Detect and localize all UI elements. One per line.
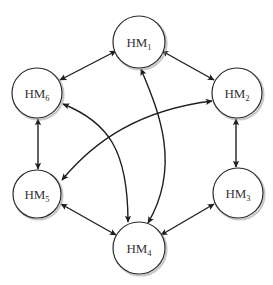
node-hm4: HM4 [113, 222, 167, 276]
node-hm3: HM3 [213, 168, 265, 220]
nodes-group: HM1 HM2 HM3 HM4 HM5 HM6 [12, 16, 265, 276]
edge-hm1-hm6 [60, 51, 116, 80]
hm-network-diagram: HM1 HM2 HM3 HM4 HM5 HM6 [0, 0, 273, 285]
edge-hm6-hm4 [63, 104, 128, 222]
node-hm6: HM6 [12, 68, 64, 120]
edge-hm1-hm2 [162, 51, 214, 80]
edge-hm5-hm4 [61, 204, 116, 235]
node-hm5: HM5 [13, 170, 63, 220]
edge-hm3-hm4 [161, 204, 214, 235]
edges-group [38, 51, 236, 235]
edge-hm1-hm4 [141, 69, 165, 223]
node-hm2: HM2 [212, 68, 264, 120]
node-hm1: HM1 [113, 16, 167, 70]
edge-hm2-hm5 [62, 101, 212, 180]
